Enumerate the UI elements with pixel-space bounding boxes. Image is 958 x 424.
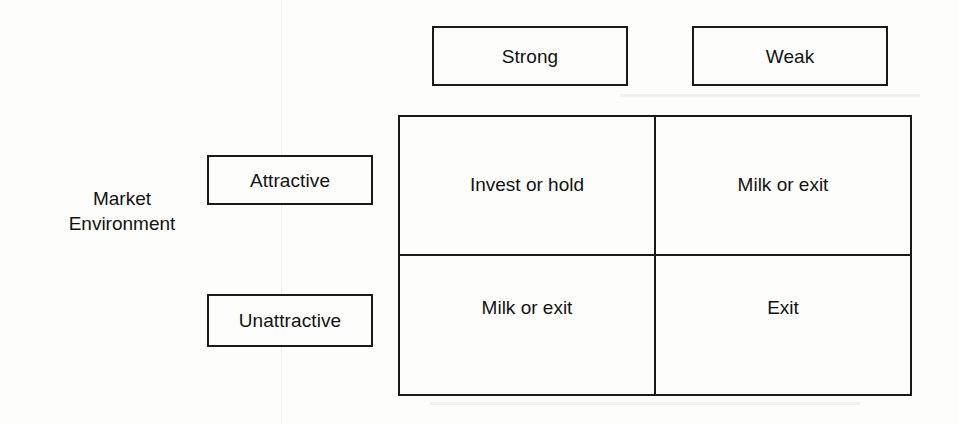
matrix-cell-label: Invest or hold <box>470 175 584 194</box>
matrix-cell-label: Milk or exit <box>482 298 573 317</box>
row-header-attractive-label: Attractive <box>250 171 330 190</box>
matrix-cell-unattractive-weak: Exit <box>656 256 910 394</box>
row-header-unattractive: Unattractive <box>207 294 373 347</box>
strategy-matrix-diagram: Strong Weak Market Environment Attractiv… <box>0 0 958 424</box>
matrix-cell-unattractive-strong: Milk or exit <box>400 256 656 394</box>
column-header-strong-label: Strong <box>502 47 559 66</box>
column-header-weak: Weak <box>692 26 888 86</box>
scan-artifact-fold-line <box>281 0 282 424</box>
row-axis-caption: Market Environment <box>22 186 222 236</box>
matrix-cell-label: Milk or exit <box>738 175 829 194</box>
row-header-unattractive-label: Unattractive <box>239 311 342 330</box>
matrix-outline: Invest or hold Milk or exit Milk or exit… <box>398 115 912 396</box>
column-header-strong: Strong <box>432 26 628 86</box>
row-axis-caption-line-1: Market <box>22 186 222 211</box>
column-header-weak-label: Weak <box>766 47 815 66</box>
scan-artifact-streak <box>620 94 920 97</box>
matrix-cell-attractive-strong: Invest or hold <box>400 117 656 256</box>
matrix-cell-attractive-weak: Milk or exit <box>656 117 910 256</box>
scan-artifact-streak <box>430 402 860 405</box>
row-axis-caption-line-2: Environment <box>22 211 222 236</box>
matrix-grid: Invest or hold Milk or exit Milk or exit… <box>400 117 910 394</box>
row-header-attractive: Attractive <box>207 155 373 205</box>
matrix-cell-label: Exit <box>767 298 799 317</box>
